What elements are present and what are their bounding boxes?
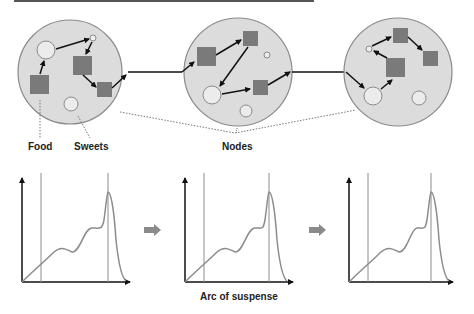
next-arrow-1 bbox=[144, 224, 161, 236]
suspense-chart-2 bbox=[185, 173, 293, 282]
diagram-canvas: Food Sweets Nodes Arc of suspense bbox=[0, 0, 474, 314]
label-food: Food bbox=[28, 141, 52, 152]
node-graph-1 bbox=[18, 20, 126, 124]
food-square bbox=[30, 75, 49, 94]
label-nodes: Nodes bbox=[222, 141, 253, 152]
suspense-curve bbox=[22, 192, 126, 282]
node-graph-2 bbox=[182, 18, 292, 126]
chart-title-arc-of-suspense: Arc of suspense bbox=[200, 291, 278, 302]
next-arrow-2 bbox=[309, 224, 326, 236]
top-edge-bar bbox=[14, 0, 314, 2]
suspense-chart-3 bbox=[349, 173, 453, 282]
suspense-chart-1 bbox=[22, 173, 130, 282]
label-sweets: Sweets bbox=[74, 141, 109, 152]
node-graph-3 bbox=[344, 18, 452, 126]
